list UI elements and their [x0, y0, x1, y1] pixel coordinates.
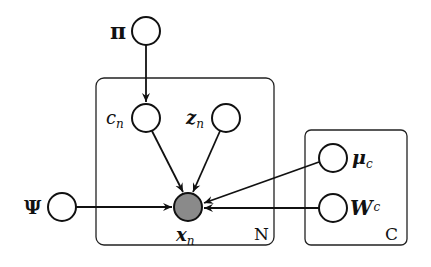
node-mu	[319, 144, 347, 172]
label-z: zn	[185, 107, 204, 131]
node-z	[212, 104, 240, 132]
node-pi	[132, 17, 160, 45]
label-pi: π	[110, 18, 126, 44]
node-c	[132, 104, 160, 132]
edge-mu-x	[204, 162, 319, 203]
node-w	[319, 194, 347, 222]
node-x-observed	[174, 193, 202, 221]
plate-c-label: C	[385, 224, 398, 244]
label-c: cn	[106, 107, 124, 131]
node-psi	[48, 193, 76, 221]
graphical-model-diagram: π cn zn xn Ψ μc Wc N C	[0, 0, 431, 267]
plate-n-label: N	[254, 224, 269, 244]
label-x: xn	[175, 224, 194, 248]
edge-z-x	[193, 131, 220, 192]
label-mu: μc	[352, 146, 373, 171]
label-psi: Ψ	[24, 196, 42, 218]
label-w: Wc	[350, 196, 380, 220]
edge-c-x	[152, 131, 183, 192]
